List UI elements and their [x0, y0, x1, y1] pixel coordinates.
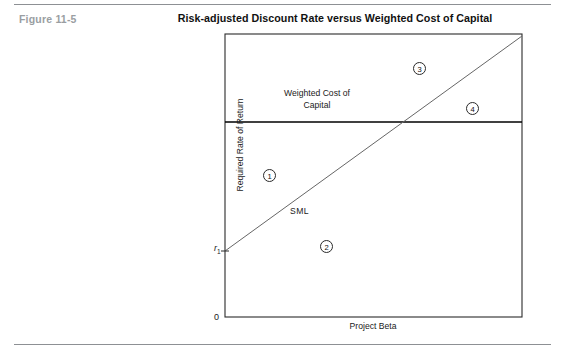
sml-line: [225, 36, 522, 251]
zone-marker-4: 4: [466, 102, 479, 115]
chart-plot-area: [0, 0, 565, 356]
wcc-annotation-label: Weighted Cost of Capital: [258, 88, 376, 111]
zone-marker-3: 3: [413, 62, 426, 75]
footer-divider-rule: [14, 344, 551, 345]
wcc-label-line-2: Capital: [304, 100, 331, 110]
y-axis-tick-risk-free-rate: r1: [214, 243, 221, 255]
tick-rf-subscript: 1: [217, 248, 221, 255]
figure-container: Figure 11-5 Risk-adjusted Discount Rate …: [0, 0, 565, 356]
x-axis-label: Project Beta: [313, 321, 433, 331]
zone-marker-2: 2: [320, 240, 333, 253]
y-axis-tick-zero: 0: [214, 312, 219, 322]
y-axis-label: Required Rate of Return: [235, 90, 245, 200]
sml-annotation-label: SML: [290, 206, 309, 216]
zone-marker-1: 1: [263, 169, 276, 182]
wcc-label-line-1: Weighted Cost of: [284, 88, 350, 98]
